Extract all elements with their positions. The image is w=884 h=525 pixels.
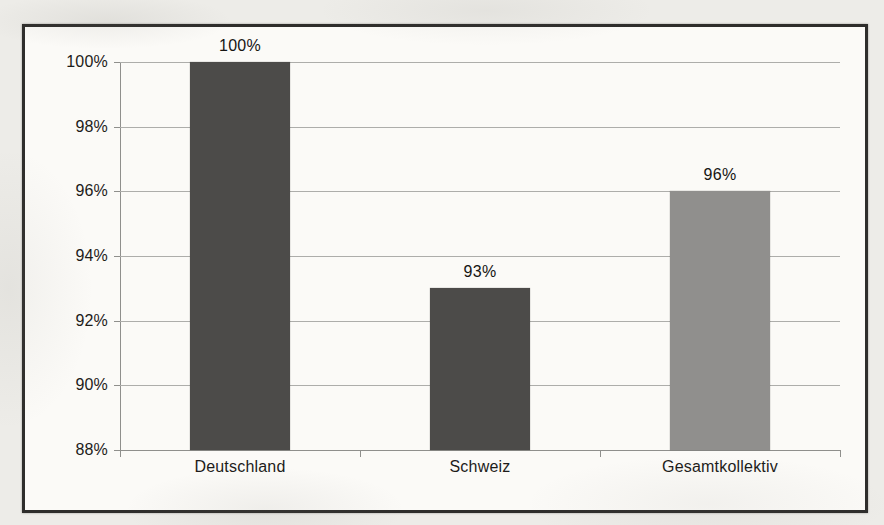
- bar-value-label: 96%: [660, 166, 780, 184]
- y-tick-mark: [114, 191, 120, 192]
- y-tick-label: 100%: [56, 54, 108, 70]
- y-tick-label: 92%: [56, 313, 108, 329]
- bar-gesamtkollektiv: [670, 191, 770, 450]
- chart-figure: 100%98%96%94%92%90%88%100%Deutschland93%…: [22, 24, 868, 513]
- y-tick-mark: [114, 385, 120, 386]
- y-tick-label: 94%: [56, 248, 108, 264]
- plot-area: 100%98%96%94%92%90%88%100%Deutschland93%…: [120, 62, 840, 450]
- bar-value-label: 100%: [180, 37, 300, 55]
- y-tick-mark: [114, 321, 120, 322]
- y-tick-label: 88%: [56, 442, 108, 458]
- x-category-label: Deutschland: [140, 458, 340, 476]
- y-tick-mark: [114, 62, 120, 63]
- y-tick-label: 98%: [56, 119, 108, 135]
- y-tick-label: 90%: [56, 377, 108, 393]
- x-category-label: Schweiz: [380, 458, 580, 476]
- y-tick-label: 96%: [56, 183, 108, 199]
- y-tick-mark: [114, 256, 120, 257]
- scanned-page: 100%98%96%94%92%90%88%100%Deutschland93%…: [0, 0, 884, 525]
- bar-deutschland: [190, 62, 290, 450]
- x-tick-mark: [600, 450, 601, 457]
- y-tick-mark: [114, 127, 120, 128]
- x-tick-mark: [360, 450, 361, 457]
- bar-value-label: 93%: [420, 263, 540, 281]
- x-tick-mark: [840, 450, 841, 457]
- bar-schweiz: [430, 288, 530, 450]
- x-tick-mark: [120, 450, 121, 457]
- x-axis-line: [120, 450, 840, 451]
- x-category-label: Gesamtkollektiv: [620, 458, 820, 476]
